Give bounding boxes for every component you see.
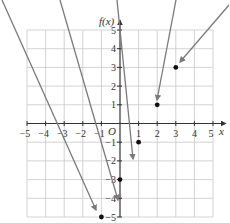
function-graph: −5 −4 −3 −2 −1 1 2 3 4 5 x O 5 4 3 2 1 −… (0, 0, 230, 222)
x-tick-labels: −5 −4 −3 −2 −1 1 2 3 4 5 (20, 128, 214, 139)
arrow-to-point-3 (180, 5, 229, 62)
point-0-neg3 (118, 177, 123, 182)
x-tick-label: 2 (155, 128, 160, 139)
x-tick-label: −5 (20, 128, 31, 139)
y-tick-label: 3 (111, 62, 116, 73)
arrow-to-point-2 (157, 0, 176, 100)
x-tick-label: 4 (192, 128, 197, 139)
x-tick-label: −2 (75, 128, 86, 139)
point-2-1 (155, 102, 160, 107)
y-tick-label: −1 (105, 137, 116, 148)
x-tick-label: 3 (173, 128, 178, 139)
x-tick-label: 5 (209, 128, 214, 139)
y-tick-label: −5 (105, 212, 116, 223)
x-tick-label: 1 (136, 128, 141, 139)
point-3-3 (173, 65, 178, 70)
x-axis-label: x (218, 125, 224, 137)
point-1-neg1 (136, 140, 141, 145)
point-neg1-neg5 (99, 215, 104, 220)
y-tick-label: 1 (111, 99, 116, 110)
y-axis-label: f(x) (99, 15, 115, 28)
y-tick-label: 4 (111, 43, 116, 54)
origin-label: O (108, 125, 116, 137)
y-tick-label: 2 (111, 81, 116, 92)
x-tick-label: −4 (38, 128, 49, 139)
y-tick-label: −4 (105, 193, 116, 204)
